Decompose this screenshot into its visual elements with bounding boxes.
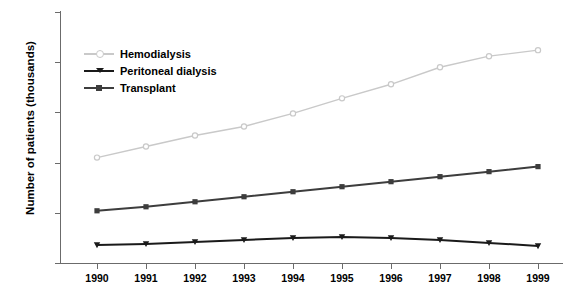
legend-swatch-icon [84, 47, 114, 61]
data-point-marker [94, 155, 99, 160]
legend-swatch-icon [84, 81, 114, 95]
legend-marker-circle-icon [96, 50, 104, 58]
data-point-marker [94, 208, 99, 213]
data-point-marker [388, 179, 393, 184]
data-point-marker [143, 204, 148, 209]
data-point-marker [437, 65, 442, 70]
data-point-marker [486, 169, 491, 174]
series-line [97, 237, 538, 246]
series-transplant [94, 164, 540, 213]
legend-label: Peritoneal dialysis [120, 65, 217, 77]
legend-marker-triangle-down-icon [96, 68, 104, 73]
data-point-marker [535, 48, 540, 53]
line-chart: Number of patients (thousands) 250200150… [0, 0, 567, 293]
series-plot-area [0, 0, 567, 293]
legend-item-transplant[interactable]: Transplant [84, 80, 217, 96]
data-point-marker [241, 194, 246, 199]
data-point-marker [388, 82, 393, 87]
data-point-marker [143, 144, 148, 149]
legend-item-peritoneal-dialysis[interactable]: Peritoneal dialysis [84, 63, 217, 79]
legend-label: Hemodialysis [120, 48, 191, 60]
data-point-marker [192, 133, 197, 138]
chart-legend: HemodialysisPeritoneal dialysisTransplan… [84, 46, 217, 97]
data-point-marker [437, 174, 442, 179]
data-point-marker [535, 164, 540, 169]
legend-marker-square-icon [96, 85, 102, 91]
data-point-marker [241, 124, 246, 129]
data-point-marker [339, 184, 344, 189]
data-point-marker [290, 111, 295, 116]
legend-item-hemodialysis[interactable]: Hemodialysis [84, 46, 217, 62]
data-point-marker [192, 199, 197, 204]
series-peritoneal-dialysis [94, 234, 541, 249]
data-point-marker [339, 96, 344, 101]
legend-label: Transplant [120, 82, 176, 94]
data-point-marker [486, 54, 491, 59]
data-point-marker [290, 189, 295, 194]
series-line [97, 167, 538, 211]
legend-swatch-icon [84, 64, 114, 78]
